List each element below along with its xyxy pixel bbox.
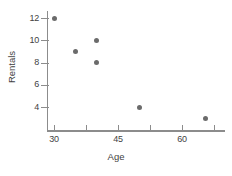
y-tick-mark [41,107,49,108]
y-tick-mark [41,63,49,64]
data-point [137,105,142,110]
x-tick-mark [182,125,183,132]
y-axis-title: Rentals [7,37,17,97]
x-tick-mark [214,125,215,132]
y-tick-label: 12 [13,14,39,23]
y-tick-label: 4 [13,103,39,112]
data-point [52,16,57,21]
y-tick-mark [41,40,49,41]
x-axis-title: Age [0,152,232,162]
data-point [94,38,99,43]
x-tick-mark [54,125,55,132]
x-axis-line [47,130,225,132]
data-point [203,116,208,121]
y-axis-line [47,11,48,130]
y-tick-mark [41,18,49,19]
x-tick-mark [118,125,119,132]
data-point [73,49,78,54]
x-tick-label: 60 [167,135,197,144]
scatter-plot: 1210864 304560 Rentals Age [0,0,232,176]
x-tick-label: 45 [103,135,133,144]
x-tick-mark [86,125,87,132]
y-tick-mark [41,85,49,86]
x-tick-mark [150,125,151,132]
x-tick-label: 30 [39,135,69,144]
data-point [94,60,99,65]
